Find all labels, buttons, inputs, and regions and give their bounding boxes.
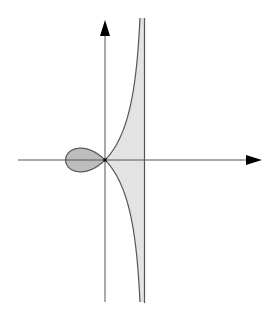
x-axis-arrow-icon bbox=[246, 155, 262, 165]
origin-node-point bbox=[103, 158, 107, 162]
strophoid-diagram bbox=[0, 0, 278, 318]
y-axis-arrow-icon bbox=[100, 20, 110, 36]
